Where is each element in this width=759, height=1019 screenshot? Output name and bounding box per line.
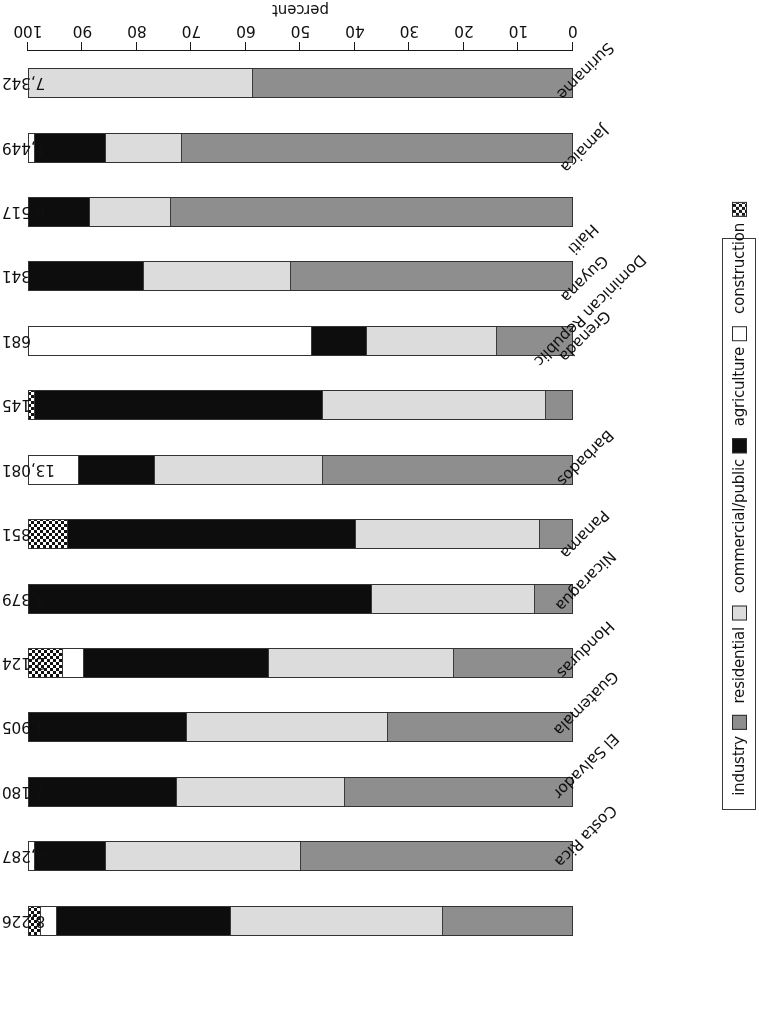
bar-value-label: 341 — [2, 263, 31, 291]
bar-value-label: 13,081 — [2, 456, 55, 484]
legend-swatch-agriculture-icon — [732, 326, 747, 341]
legend-item-residential[interactable]: residential — [730, 606, 748, 704]
value-label-column: 8,2264,2877,1804,9052,1245,37985113,0811… — [0, 51, 28, 953]
x-axis-tick-label: 80 — [114, 22, 160, 40]
legend-swatch-industry-icon — [732, 715, 747, 730]
bar-honduras — [28, 713, 573, 743]
x-axis-tick-label: 10 — [496, 22, 542, 40]
bar-segment-agriculture — [29, 327, 311, 355]
bar-segment-construction — [29, 520, 67, 548]
bar-value-label: 681 — [2, 327, 31, 355]
bar-value-label: 5,379 — [2, 585, 45, 613]
bar-segment-commercial — [34, 391, 322, 419]
legend-label: construction — [730, 223, 748, 314]
bar-barbados — [28, 519, 573, 549]
x-axis-tick-label: 0 — [550, 22, 596, 40]
bar-guyana — [28, 326, 573, 356]
legend-item-construction[interactable]: construction — [730, 202, 748, 314]
legend-item-industry[interactable]: industry — [730, 715, 748, 796]
bar-segment-commercial — [29, 585, 371, 613]
x-axis-tick-label: 30 — [387, 22, 433, 40]
x-axis-tick — [27, 42, 28, 51]
bar-trinidad-and-tobago — [28, 68, 573, 98]
bar-segment-industry — [290, 263, 572, 291]
bar-segment-residential — [105, 842, 300, 870]
bar-el-salvador — [28, 841, 573, 871]
bar-segment-residential — [322, 391, 545, 419]
x-axis-tick-label: 70 — [169, 22, 215, 40]
bar-segment-residential — [105, 134, 181, 162]
bar-segment-industry — [181, 134, 572, 162]
bar-segment-industry — [252, 69, 572, 97]
bar-segment-industry — [322, 456, 572, 484]
x-axis-tick-label: 50 — [278, 22, 324, 40]
bar-segment-industry — [170, 198, 572, 226]
bar-segment-commercial — [83, 649, 268, 677]
x-axis-tick — [245, 42, 246, 51]
legend-item-agriculture[interactable]: agriculture — [730, 326, 748, 426]
bar-panama — [28, 584, 573, 614]
bar-segment-residential — [268, 649, 453, 677]
x-axis-tick-label: 20 — [441, 22, 487, 40]
bar-value-label: 4,287 — [2, 842, 45, 870]
bar-value-label: 6,517 — [2, 198, 45, 226]
bar-costa-rica — [28, 906, 573, 936]
legend-swatch-commercial-icon — [732, 438, 747, 453]
x-axis-tick — [354, 42, 355, 51]
bar-segment-commercial — [67, 520, 355, 548]
bar-segment-industry — [387, 714, 572, 742]
bar-segment-industry — [301, 842, 573, 870]
bar-segment-commercial — [56, 907, 230, 935]
bar-segment-residential — [29, 69, 252, 97]
bar-guatemala — [28, 777, 573, 807]
bar-segment-residential — [186, 714, 387, 742]
x-axis-tick — [518, 42, 519, 51]
bar-value-label: 4,905 — [2, 714, 45, 742]
x-axis-tick — [136, 42, 137, 51]
bar-segment-residential — [176, 778, 344, 806]
chart-legend: industryresidentialcommercial/publicagri… — [722, 238, 758, 810]
bar-segment-commercial — [311, 327, 365, 355]
bar-segment-residential — [355, 520, 540, 548]
bar-value-label: 7,342 — [2, 69, 45, 97]
x-axis-tick-label: 100 — [5, 22, 51, 40]
legend-swatch-residential-icon — [732, 606, 747, 621]
x-axis-tick — [191, 42, 192, 51]
bar-segment-residential — [230, 907, 442, 935]
bar-segment-industry — [344, 778, 572, 806]
bar-dominican-republic — [28, 455, 573, 485]
x-axis-tick — [300, 42, 301, 51]
plot-area — [28, 51, 573, 953]
x-axis-line — [28, 50, 573, 51]
bar-segment-residential — [366, 327, 496, 355]
x-axis-tick — [463, 42, 464, 51]
bar-value-label: 851 — [2, 520, 31, 548]
bar-segment-residential — [143, 263, 290, 291]
bar-jamaica — [28, 197, 573, 227]
legend-label: residential — [730, 627, 748, 704]
x-axis-tick-label: 90 — [60, 22, 106, 40]
bar-grenada — [28, 390, 573, 420]
bar-value-label: 7,180 — [2, 778, 45, 806]
bar-segment-commercial — [29, 714, 186, 742]
x-axis-tick-label: 60 — [223, 22, 269, 40]
bar-segment-agriculture — [62, 649, 84, 677]
bar-segment-industry — [453, 649, 572, 677]
x-axis-tick-label: 40 — [332, 22, 378, 40]
bar-segment-commercial — [29, 263, 143, 291]
bar-segment-commercial — [29, 778, 176, 806]
bar-suriname — [28, 133, 573, 163]
bar-value-label: 8,226 — [2, 907, 45, 935]
bar-segment-residential — [154, 456, 322, 484]
bar-segment-industry — [442, 907, 572, 935]
bar-value-label: 145 — [2, 391, 31, 419]
legend-item-commercial[interactable]: commercial/public — [730, 438, 748, 593]
x-axis-tick — [82, 42, 83, 51]
bar-value-label: 2,124 — [2, 649, 45, 677]
bar-value-label: 1,449 — [2, 134, 45, 162]
bar-nicaragua — [28, 648, 573, 678]
chart-figure: 8,2264,2877,1804,9052,1245,37985113,0811… — [0, 0, 759, 1019]
legend-label: agriculture — [730, 347, 748, 426]
bar-segment-residential — [371, 585, 534, 613]
legend-swatch-construction-icon — [732, 202, 747, 217]
